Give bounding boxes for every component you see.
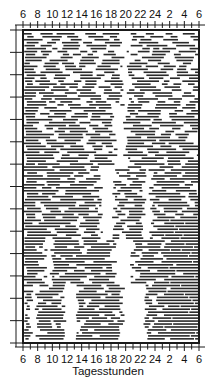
x-axis-title: Tagesstunden [0,365,216,377]
top-tick-label: 14 [76,9,88,20]
top-tick-label: 4 [181,9,187,20]
bottom-tick-label: 12 [61,354,73,365]
bottom-tick-label: 14 [76,354,88,365]
bottom-tick-label: 2 [167,354,173,365]
top-tick-label: 8 [35,9,41,20]
top-tick-label: 6 [20,9,26,20]
activity-bars [23,33,199,340]
bottom-tick-label: 10 [46,354,58,365]
top-tick-label: 22 [134,9,146,20]
bottom-tick-label: 4 [181,354,187,365]
top-tick-label: 20 [120,9,132,20]
top-tick-label: 10 [46,9,58,20]
top-tick-label: 12 [61,9,73,20]
top-tick-label: 16 [90,9,102,20]
top-tick-label: 24 [149,9,161,20]
bottom-tick-label: 8 [35,354,41,365]
top-tick-label: 2 [167,9,173,20]
bottom-tick-label: 16 [90,354,102,365]
bottom-tick-label: 18 [105,354,117,365]
top-tick-label: 6 [196,9,202,20]
axes [10,21,205,351]
bottom-tick-label: 20 [120,354,132,365]
bottom-tick-label: 6 [20,354,26,365]
plot-frame [23,30,199,343]
bottom-tick-label: 22 [134,354,146,365]
top-tick-label: 18 [105,9,117,20]
bottom-tick-label: 6 [196,354,202,365]
bottom-tick-label: 24 [149,354,161,365]
